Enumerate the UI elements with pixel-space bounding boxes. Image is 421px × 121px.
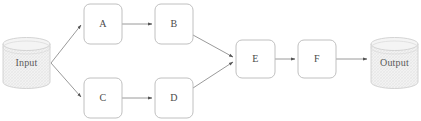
node-d-process[interactable]: D [155, 78, 193, 118]
flowchart-diagram: Input A B C D E F [0, 0, 421, 121]
node-input-label: Input [15, 57, 37, 68]
node-b-process[interactable]: B [155, 4, 193, 44]
node-input-datastore[interactable]: Input [3, 38, 50, 89]
edge-input-to-c [51, 63, 81, 97]
node-output-datastore[interactable]: Output [371, 38, 418, 89]
node-e-label: E [252, 53, 258, 64]
node-f-process[interactable]: F [298, 40, 336, 78]
node-f-label: F [314, 53, 320, 64]
node-a-process[interactable]: A [84, 4, 122, 44]
diagram-svg-canvas: Input A B C D E F [0, 0, 421, 121]
node-b-label: B [171, 18, 178, 29]
edge-input-to-a [51, 25, 81, 63]
edge-b-to-e [193, 35, 233, 57]
node-a-label: A [99, 18, 107, 29]
node-c-process[interactable]: C [84, 78, 122, 118]
node-c-label: C [100, 92, 107, 103]
node-e-process[interactable]: E [236, 40, 275, 78]
node-output-label: Output [380, 57, 409, 68]
edge-d-to-e [193, 62, 233, 88]
node-d-label: D [170, 92, 177, 103]
